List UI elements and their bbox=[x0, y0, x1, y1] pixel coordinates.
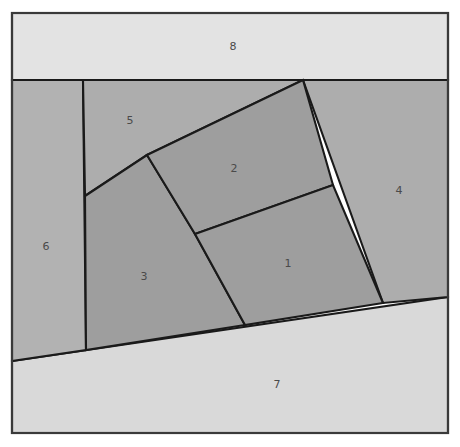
partition-canvas: 8 7 6 5 4 3 2 1 bbox=[0, 0, 460, 447]
regions-group bbox=[12, 13, 448, 433]
region-label-7: 7 bbox=[273, 378, 280, 391]
partition-diagram: 8 7 6 5 4 3 2 1 bbox=[0, 0, 460, 447]
region-label-5: 5 bbox=[126, 114, 133, 127]
region-label-3: 3 bbox=[140, 270, 147, 283]
region-label-2: 2 bbox=[230, 162, 237, 175]
region-label-8: 8 bbox=[229, 40, 236, 53]
region-6-shape[interactable] bbox=[12, 80, 86, 361]
region-label-1: 1 bbox=[284, 257, 291, 270]
region-label-4: 4 bbox=[395, 184, 402, 197]
region-label-6: 6 bbox=[42, 240, 49, 253]
